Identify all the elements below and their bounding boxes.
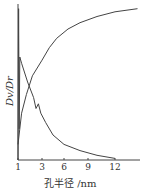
chart-plot-area [0, 0, 143, 190]
cumulative-curve [18, 9, 138, 145]
x-tick-label: 6 [61, 162, 67, 172]
x-tick-label: 12 [109, 162, 120, 172]
distribution-curve [18, 9, 115, 160]
x-tick-label: 3 [39, 162, 45, 172]
x-tick-label: 9 [85, 162, 91, 172]
y-axis-label: Dv/Dr [2, 78, 16, 108]
x-axis-label: 孔半径 /nm [44, 175, 96, 190]
x-tick-label: 1 [15, 162, 21, 172]
